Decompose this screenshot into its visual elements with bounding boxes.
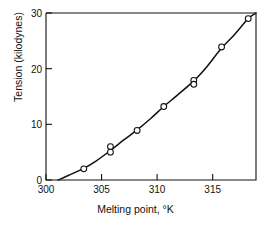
x-axis-label: Melting point, °K bbox=[0, 203, 271, 215]
y-axis-label: Tension (kilodynes) bbox=[12, 0, 24, 132]
y-tick-marks bbox=[46, 13, 52, 180]
x-tick-label-310: 310 bbox=[149, 184, 166, 195]
data-point bbox=[161, 104, 167, 110]
data-point bbox=[245, 16, 251, 22]
x-tick-label-315: 315 bbox=[204, 184, 221, 195]
data-point bbox=[219, 44, 225, 50]
data-point bbox=[108, 144, 114, 150]
plot-border bbox=[46, 13, 256, 180]
chart-figure: 0102030 300305310315 Tension (kilodynes)… bbox=[0, 0, 271, 225]
data-point bbox=[108, 149, 114, 155]
x-tick-label-300: 300 bbox=[38, 184, 55, 195]
data-point bbox=[191, 81, 197, 87]
fit-curve bbox=[58, 13, 256, 180]
data-point bbox=[134, 128, 140, 134]
x-tick-label-305: 305 bbox=[93, 184, 110, 195]
data-point bbox=[81, 166, 87, 172]
y-axis-label-wrap: Tension (kilodynes) bbox=[12, 0, 26, 132]
data-point-markers bbox=[81, 16, 251, 172]
axes-frame bbox=[46, 13, 256, 180]
